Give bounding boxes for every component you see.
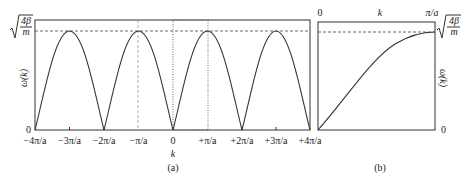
svg-text:4β: 4β	[449, 15, 459, 26]
y-zero-label-b: 0	[441, 124, 446, 135]
x-start-label-b: 0	[318, 7, 323, 18]
y-zero-label-a: 0	[26, 124, 31, 135]
tick-label: +2π/a	[231, 135, 254, 146]
y-max-label-a: 4β m	[10, 15, 33, 38]
panel-b-frame	[318, 22, 435, 130]
first-brillouin-half-box	[173, 20, 208, 130]
y-axis-label-b: ω(k)	[437, 69, 449, 88]
y-axis-label-a: ω(k)	[18, 68, 30, 87]
x-axis-label-a: k	[171, 148, 176, 159]
panel-b: 0 k π/a 0 ω(k) 4β m (b)	[318, 7, 462, 174]
tick-label: 0	[171, 135, 176, 146]
x-tick-labels-a: −4π/a −3π/a −2π/a −π/a 0 +π/a +2π/a +3π/…	[24, 135, 322, 146]
tick-label: +π/a	[199, 135, 217, 146]
tick-label: +3π/a	[265, 135, 288, 146]
panel-a-caption: (a)	[167, 162, 178, 174]
tick-label: −4π/a	[24, 135, 47, 146]
svg-text:m: m	[22, 26, 29, 37]
dispersion-curve-b	[318, 32, 435, 130]
tick-label: +4π/a	[299, 135, 322, 146]
svg-text:4β: 4β	[21, 15, 31, 26]
y-max-label-b: 4β m	[437, 15, 461, 38]
x-axis-label-b: k	[378, 7, 383, 18]
dispersion-curve-a	[35, 31, 310, 130]
tick-label: −2π/a	[93, 135, 116, 146]
svg-text:m: m	[450, 26, 457, 37]
dispersion-figure: −4π/a −3π/a −2π/a −π/a 0 +π/a +2π/a +3π/…	[0, 0, 470, 183]
panel-a: −4π/a −3π/a −2π/a −π/a 0 +π/a +2π/a +3π/…	[10, 15, 322, 174]
x-end-label-b: π/a	[426, 7, 439, 18]
tick-label: −3π/a	[58, 135, 81, 146]
tick-label: −π/a	[130, 135, 148, 146]
panel-b-caption: (b)	[374, 162, 386, 174]
